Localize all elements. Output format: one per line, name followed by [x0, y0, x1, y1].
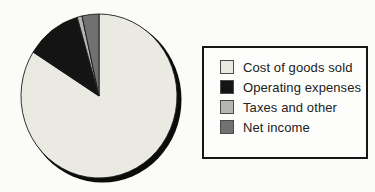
legend-label: Operating expenses	[243, 80, 361, 95]
legend-label: Cost of goods sold	[243, 60, 352, 75]
legend-label: Taxes and other	[243, 100, 337, 115]
legend-swatch-net-income	[220, 120, 234, 134]
legend-item: Net income	[204, 117, 366, 137]
legend-swatch-taxes-and-other	[220, 100, 234, 114]
legend-item: Cost of goods sold	[204, 57, 366, 77]
legend-swatch-operating-expenses	[220, 80, 234, 94]
pie-chart	[0, 0, 210, 192]
figure-canvas: Cost of goods sold Operating expenses Ta…	[0, 0, 375, 192]
legend: Cost of goods sold Operating expenses Ta…	[202, 46, 368, 159]
legend-item: Taxes and other	[204, 97, 366, 117]
legend-swatch-cost-of-goods-sold	[220, 60, 234, 74]
legend-item: Operating expenses	[204, 77, 366, 97]
legend-label: Net income	[243, 120, 310, 135]
